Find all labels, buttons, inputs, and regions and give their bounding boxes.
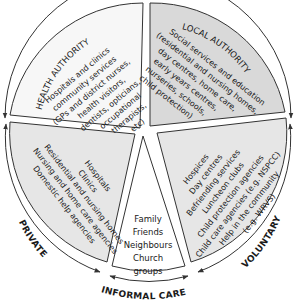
outer-ring-bottom — [110, 276, 188, 281]
svg-text:Church: Church — [133, 253, 163, 263]
care-sectors-diagram: HEALTH AUTHORITY Hospitals and clinics c… — [0, 0, 297, 307]
svg-text:groups: groups — [133, 266, 163, 276]
private-label: PRIVATE — [17, 218, 49, 259]
informal-care-label: INFORMAL CARE — [100, 284, 187, 301]
svg-text:Family: Family — [134, 214, 161, 224]
svg-text:Friends: Friends — [133, 227, 164, 237]
svg-text:Neighbours: Neighbours — [124, 240, 173, 250]
